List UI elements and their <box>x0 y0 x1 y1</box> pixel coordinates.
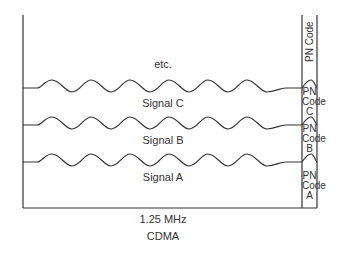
label-signal-a: Signal A <box>143 171 183 183</box>
label-technology: CDMA <box>147 230 179 242</box>
wave-signal-a <box>23 154 317 166</box>
label-signal-b: Signal B <box>143 134 184 146</box>
label-pn-code-b: PN Code B <box>302 124 317 154</box>
label-pn-code-top: PN Code <box>304 21 315 62</box>
label-pn-code-c: PN Code C <box>302 87 317 117</box>
pn-a-line3: A <box>302 191 317 201</box>
pn-c-line3: C <box>302 107 317 117</box>
label-pn-code-a: PN Code A <box>302 171 317 201</box>
wave-signal-b <box>23 117 317 129</box>
label-bandwidth: 1.25 MHz <box>139 213 186 225</box>
wave-signal-c <box>23 80 317 92</box>
pn-b-line3: B <box>302 144 317 154</box>
label-etc: etc. <box>154 58 172 70</box>
label-signal-c: Signal C <box>142 97 184 109</box>
